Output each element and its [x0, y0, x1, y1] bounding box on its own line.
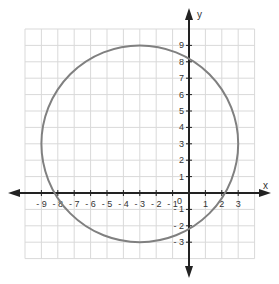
y-tick-label: 9 — [179, 40, 184, 50]
y-tick-label: 6 — [179, 90, 184, 100]
y-tick-label: 5 — [179, 106, 184, 116]
x-tick-label: - 4 — [118, 199, 129, 209]
x-tick-label: 1 — [203, 199, 208, 209]
x-tick-label: - 9 — [36, 199, 47, 209]
y-tick-label: 8 — [179, 57, 184, 67]
y-axis-label: y — [197, 9, 202, 20]
y-tick-label: 4 — [179, 122, 184, 132]
y-tick-label: - 3 — [173, 237, 184, 247]
coordinate-plane: - 9- 8- 7- 6- 5- 4- 3- 2- 1123987654321-… — [0, 0, 279, 284]
y-tick-label: - 2 — [173, 221, 184, 231]
x-tick-label: 3 — [236, 199, 241, 209]
origin-label: 0 — [177, 196, 182, 206]
x-axis-label: x — [263, 180, 268, 191]
x-tick-label: - 5 — [102, 199, 113, 209]
y-axis-down-arrow-icon — [185, 266, 193, 278]
y-axis-up-arrow-icon — [185, 8, 193, 20]
grid-lines — [25, 29, 255, 259]
y-tick-label: 3 — [179, 139, 184, 149]
x-tick-label: - 7 — [69, 199, 80, 209]
y-tick-label: 2 — [179, 155, 184, 165]
x-axis-left-arrow-icon — [8, 189, 20, 197]
x-tick-label: - 2 — [151, 199, 162, 209]
y-tick-label: 1 — [179, 172, 184, 182]
x-tick-label: - 6 — [85, 199, 96, 209]
y-tick-label: 7 — [179, 73, 184, 83]
x-tick-label: - 3 — [135, 199, 146, 209]
